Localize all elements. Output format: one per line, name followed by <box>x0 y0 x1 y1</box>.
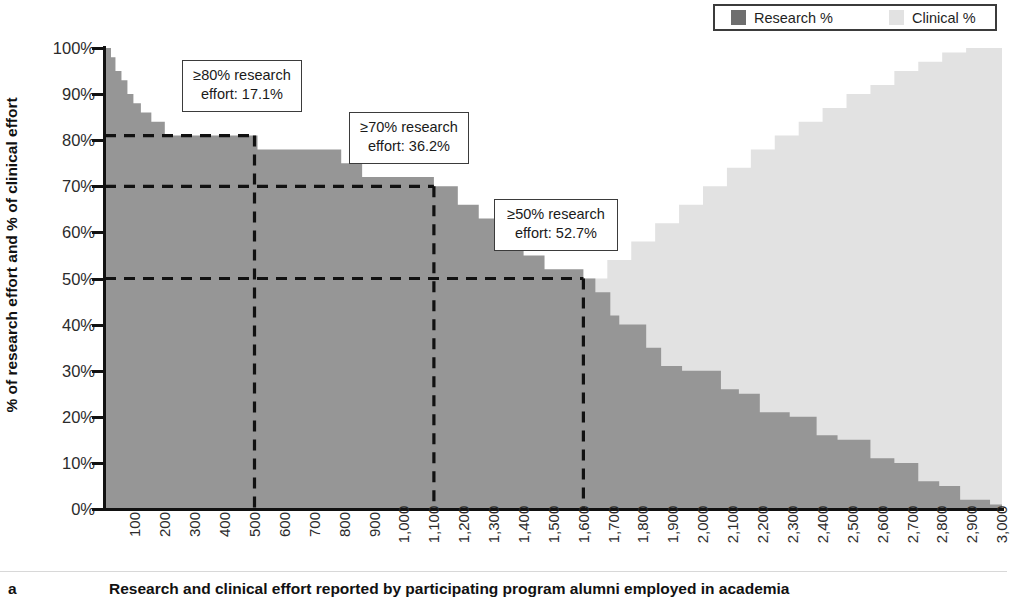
x-tick-label-2700: 2,700 <box>902 516 922 574</box>
x-tick-label-text: 1,700 <box>605 506 622 544</box>
x-tick-label-1300: 1,300 <box>484 516 504 574</box>
x-tick-label-1000: 1,000 <box>394 516 414 574</box>
x-tick-label-2800: 2,800 <box>932 516 952 574</box>
x-tick-label-700: 700 <box>304 516 324 574</box>
x-tick-label-2200: 2,200 <box>753 516 773 574</box>
x-tick-label-text: 300 <box>186 512 203 537</box>
x-tick-label-text: 2,900 <box>964 506 981 544</box>
plot-area <box>105 48 1002 509</box>
panel-letter: a <box>8 580 17 598</box>
x-tick-label-100: 100 <box>125 516 145 574</box>
x-tick-label-text: 2,200 <box>754 506 771 544</box>
x-tick-label-1400: 1,400 <box>514 516 534 574</box>
x-tick-label-1100: 1,100 <box>424 516 444 574</box>
annotation-line-2: effort: 36.2% <box>359 137 459 156</box>
legend-entry-clinical: Clinical % <box>889 6 976 29</box>
x-tick-label-text: 800 <box>336 512 353 537</box>
y-tick-label-0: 0% <box>33 500 95 519</box>
x-tick-label-800: 800 <box>334 516 354 574</box>
x-tick-label-1600: 1,600 <box>573 516 593 574</box>
x-tick-label-600: 600 <box>274 516 294 574</box>
annotation-callout-50: ≥50% researcheffort: 52.7% <box>494 199 618 251</box>
legend-label-clinical: Clinical % <box>912 10 976 26</box>
x-tick-label-1200: 1,200 <box>454 516 474 574</box>
x-tick-label-text: 200 <box>156 512 173 537</box>
x-tick-label-text: 1,200 <box>455 506 472 544</box>
x-tick-label-text: 1,400 <box>515 506 532 544</box>
x-tick-label-text: 700 <box>306 512 323 537</box>
y-tick-label-70: 70% <box>33 177 95 196</box>
x-tick-label-text: 2,800 <box>934 506 951 544</box>
x-tick-label-300: 300 <box>185 516 205 574</box>
x-tick-label-text: 2,100 <box>724 506 741 544</box>
annotation-line-1: ≥80% research <box>192 66 292 85</box>
caption-divider <box>0 571 1007 572</box>
x-tick-label-200: 200 <box>155 516 175 574</box>
x-tick-label-400: 400 <box>215 516 235 574</box>
x-tick-label-2500: 2,500 <box>843 516 863 574</box>
y-axis-title-text: % of research effort and % of clinical e… <box>3 97 21 412</box>
y-tick-label-100: 100% <box>33 39 95 58</box>
x-tick-label-text: 400 <box>216 512 233 537</box>
x-tick-label-text: 1,800 <box>635 506 652 544</box>
y-axis-line <box>103 46 106 511</box>
y-axis-title: % of research effort and % of clinical e… <box>0 0 24 510</box>
x-tick-label-text: 1,100 <box>425 506 442 544</box>
y-tick-label-20: 20% <box>33 407 95 426</box>
x-tick-label-2400: 2,400 <box>813 516 833 574</box>
x-tick-label-text: 2,000 <box>695 506 712 544</box>
legend-label-research: Research % <box>754 10 833 26</box>
annotation-callout-80: ≥80% researcheffort: 17.1% <box>182 60 302 112</box>
x-tick-label-2100: 2,100 <box>723 516 743 574</box>
clinical-swatch-icon <box>889 10 904 25</box>
x-tick-label-2600: 2,600 <box>872 516 892 574</box>
x-tick-label-2000: 2,000 <box>693 516 713 574</box>
x-tick-label-text: 1,600 <box>575 506 592 544</box>
x-tick-label-text: 600 <box>276 512 293 537</box>
x-tick-label-500: 500 <box>245 516 265 574</box>
x-tick-label-1500: 1,500 <box>544 516 564 574</box>
legend-entry-research: Research % <box>731 6 833 29</box>
chart-legend: Research % Clinical % <box>713 4 997 31</box>
y-tick-label-80: 80% <box>33 131 95 150</box>
x-tick-label-text: 2,700 <box>904 506 921 544</box>
y-tick-label-90: 90% <box>33 85 95 104</box>
x-tick-label-text: 1,000 <box>396 506 413 544</box>
annotation-line-1: ≥50% research <box>504 205 608 224</box>
x-tick-label-2300: 2,300 <box>783 516 803 574</box>
x-tick-label-1700: 1,700 <box>603 516 623 574</box>
x-tick-label-900: 900 <box>364 516 384 574</box>
annotation-line-1: ≥70% research <box>359 118 459 137</box>
x-tick-label-text: 2,500 <box>844 506 861 544</box>
x-tick-label-text: 1,500 <box>545 506 562 544</box>
x-tick-label-1800: 1,800 <box>633 516 653 574</box>
y-tick-label-50: 50% <box>33 269 95 288</box>
annotation-line-2: effort: 52.7% <box>504 224 608 243</box>
x-tick-label-2900: 2,900 <box>962 516 982 574</box>
x-tick-label-text: 2,400 <box>814 506 831 544</box>
y-tick-label-30: 30% <box>33 361 95 380</box>
research-swatch-icon <box>731 10 746 25</box>
annotation-line-2: effort: 17.1% <box>192 85 292 104</box>
x-tick-label-text: 3,000 <box>994 506 1011 544</box>
x-tick-label-text: 100 <box>126 512 143 537</box>
x-tick-label-text: 2,300 <box>784 506 801 544</box>
x-tick-label-text: 1,300 <box>485 506 502 544</box>
figure-caption-row: a Research and clinical effort reported … <box>0 578 1007 604</box>
figure-caption: Research and clinical effort reported by… <box>109 580 789 598</box>
x-tick-label-text: 500 <box>246 512 263 537</box>
x-tick-label-text: 1,900 <box>665 506 682 544</box>
chart-canvas <box>105 48 1002 509</box>
x-tick-label-text: 900 <box>366 512 383 537</box>
y-tick-label-40: 40% <box>33 315 95 334</box>
y-tick-label-10: 10% <box>33 453 95 472</box>
x-tick-label-3000: 3,000 <box>992 516 1012 574</box>
annotation-callout-70: ≥70% researcheffort: 36.2% <box>349 112 469 164</box>
x-tick-label-1900: 1,900 <box>663 516 683 574</box>
x-tick-label-text: 2,600 <box>874 506 891 544</box>
y-tick-label-60: 60% <box>33 223 95 242</box>
